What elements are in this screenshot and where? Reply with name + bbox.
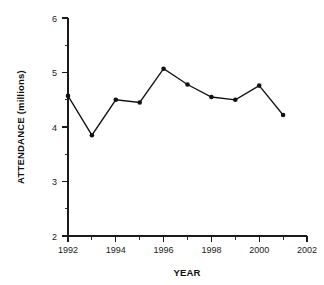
y-tick-label-3: 3 [52,177,57,187]
y-tick-label-5: 5 [52,68,57,78]
x-tick-label-1994: 1994 [106,245,126,255]
x-tick-label-1998: 1998 [201,245,221,255]
attendance-line-chart: 6 5 4 3 2 1992 1994 1996 1998 2000 2002 [0,0,324,285]
data-point-2000 [257,83,262,88]
x-tick-label-1992: 1992 [58,245,78,255]
data-point-1994 [114,98,119,103]
chart-canvas: 6 5 4 3 2 1992 1994 1996 1998 2000 2002 [0,0,324,285]
data-point-1998 [209,95,214,100]
x-tick-label-2002: 2002 [297,245,317,255]
x-tick-label-2000: 2000 [249,245,269,255]
data-series-attendance [66,66,286,137]
x-tick-label-1996: 1996 [154,245,174,255]
series-polyline [68,69,283,136]
y-tick-label-6: 6 [52,14,57,24]
y-axis: 6 5 4 3 2 [52,14,68,242]
data-point-1992 [66,94,71,99]
x-axis-title: YEAR [173,267,200,278]
x-axis: 1992 1994 1996 1998 2000 2002 [58,236,317,255]
y-tick-label-2: 2 [52,232,57,242]
y-axis-title: ATTENDANCE (millions) [15,70,26,184]
data-point-2001 [281,113,286,118]
data-point-1995 [137,100,142,105]
data-point-1999 [233,98,238,103]
y-tick-label-4: 4 [52,123,57,133]
data-point-1996 [161,66,166,71]
data-point-1997 [185,82,190,87]
data-point-1993 [90,133,95,138]
